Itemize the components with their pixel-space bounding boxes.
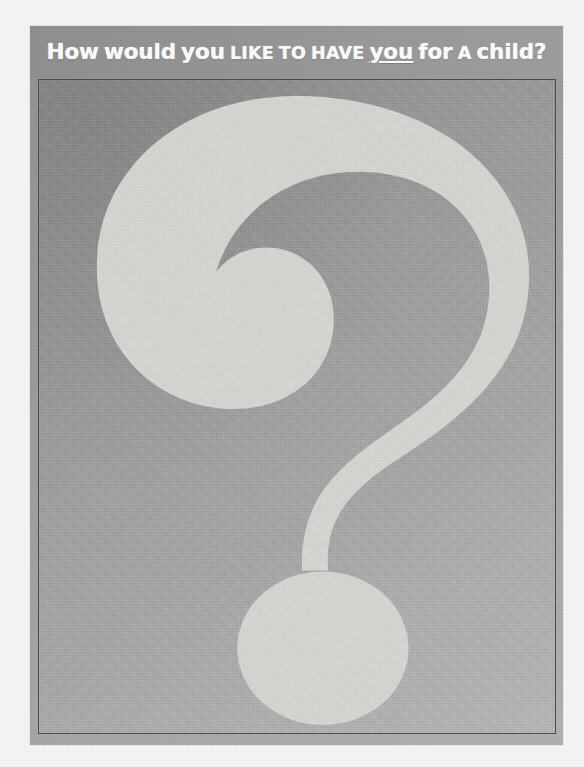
headline-word-you-emphasized: you: [369, 39, 413, 64]
question-mark-dot: [237, 571, 408, 725]
poster-artwork-frame: [38, 79, 556, 734]
poster-headline: Howwouldyouliketohaveyouforachild?: [47, 41, 547, 63]
question-mark-icon: [39, 80, 555, 733]
scanned-page: Howwouldyouliketohaveyouforachild?: [0, 0, 584, 767]
poster-headline-band: Howwouldyouliketohaveyouforachild?: [30, 26, 563, 78]
poster: Howwouldyouliketohaveyouforachild?: [30, 26, 563, 745]
headline-word-you1: you: [181, 39, 225, 64]
headline-word-like: like: [230, 43, 274, 63]
headline-word-would: would: [104, 39, 176, 64]
headline-word-to: to: [279, 43, 306, 63]
headline-word-for: for: [418, 39, 452, 64]
headline-word-how: How: [47, 39, 99, 64]
headline-word-have: have: [311, 43, 364, 63]
headline-word-child: child: [476, 39, 534, 64]
headline-word-a: a: [458, 43, 472, 63]
headline-question-mark: ?: [534, 39, 546, 64]
